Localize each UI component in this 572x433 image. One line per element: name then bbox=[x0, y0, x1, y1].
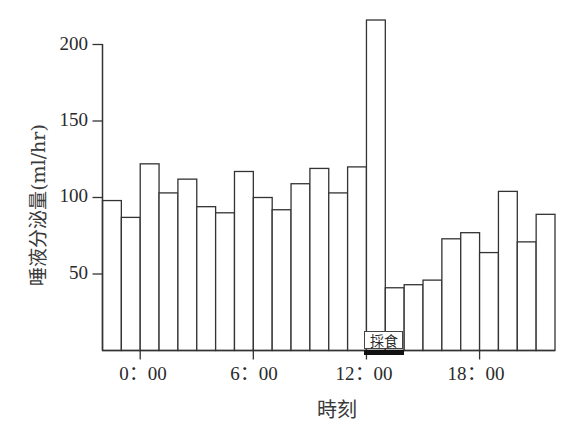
x-tick-label-0: 0：00 bbox=[119, 358, 167, 385]
y-ticks bbox=[93, 45, 103, 275]
bar-15-00 bbox=[423, 280, 442, 350]
bar-22-00 bbox=[103, 201, 122, 351]
bar-21-00 bbox=[536, 214, 555, 350]
x-axis-title: 時刻 bbox=[317, 394, 357, 423]
bar-3-00 bbox=[197, 207, 216, 351]
bars-group bbox=[103, 20, 556, 350]
y-axis-title: 唾液分泌量(ml/hr) bbox=[23, 124, 50, 286]
x-tick-label-12: 12：00 bbox=[336, 358, 393, 385]
feeding-annotation-label: 採食 bbox=[364, 331, 403, 349]
bar-12-00 bbox=[366, 20, 385, 350]
bar-17-00 bbox=[461, 233, 480, 351]
feeding-period-bar bbox=[364, 350, 404, 355]
bar-9-00 bbox=[310, 168, 329, 350]
bar-14-00 bbox=[404, 285, 423, 351]
bar-8-00 bbox=[291, 184, 310, 351]
bar-11-00 bbox=[348, 167, 367, 351]
y-tick-label-200: 200 bbox=[28, 33, 88, 55]
bar-18-00 bbox=[480, 253, 499, 351]
x-tick-label-18: 18：00 bbox=[448, 358, 505, 385]
bar-23-00 bbox=[121, 217, 140, 350]
bar-1-00 bbox=[159, 193, 178, 351]
bar-6-00 bbox=[253, 198, 272, 351]
x-tick-label-6: 6：00 bbox=[230, 358, 278, 385]
bar-7-00 bbox=[272, 210, 291, 351]
bar-16-00 bbox=[442, 239, 461, 351]
bar-10-00 bbox=[329, 193, 348, 351]
bar-19-00 bbox=[498, 191, 517, 350]
bar-20-00 bbox=[517, 242, 536, 351]
bar-4-00 bbox=[216, 213, 235, 351]
bar-5-00 bbox=[234, 171, 253, 350]
bar-0-00 bbox=[140, 164, 159, 351]
x-ticks bbox=[140, 351, 479, 360]
bar-2-00 bbox=[178, 179, 197, 350]
